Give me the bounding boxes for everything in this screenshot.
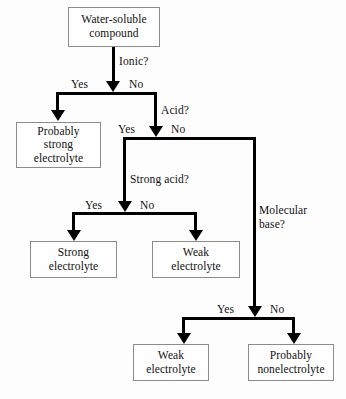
decision-label-molecular-base-line1: Molecular: [259, 204, 329, 218]
arrowhead-ionic: [106, 81, 120, 92]
node-strong-electrolyte-line1: Strong: [47, 246, 101, 260]
connector-strong-acid-yes: [72, 212, 75, 232]
node-strong-electrolyte: Strong electrolyte: [30, 241, 117, 278]
flowchart-canvas: Water-soluble compound Ionic? Yes No Pro…: [0, 0, 346, 399]
node-water-soluble-compound: Water-soluble compound: [68, 7, 160, 47]
node-probably-strong-electrolyte-line3: electrolyte: [32, 152, 86, 166]
decision-label-molecular-base-line2: base?: [259, 218, 329, 232]
branch-label-molecular-base-yes: Yes: [217, 303, 234, 317]
decision-label-ionic: Ionic?: [119, 55, 148, 69]
decision-label-acid: Acid?: [161, 104, 189, 118]
arrowhead-strong-acid: [118, 201, 132, 212]
branch-label-strong-acid-no: No: [140, 199, 154, 213]
connector-ionic-yes: [56, 92, 59, 112]
node-probably-nonelectrolyte-line2: nonelectrolyte: [255, 363, 326, 377]
branch-label-acid-no: No: [171, 123, 185, 137]
arrowhead-acid: [149, 126, 163, 137]
connector-strong-acid-no: [194, 212, 197, 232]
connector-molecular-base-split-bar: [182, 317, 295, 320]
branch-label-strong-acid-yes: Yes: [85, 199, 102, 213]
decision-label-strong-acid: Strong acid?: [130, 173, 189, 187]
node-weak-electrolyte-mid-line1: Weak: [169, 246, 223, 260]
node-weak-electrolyte-mid: Weak electrolyte: [152, 241, 240, 278]
branch-label-molecular-base-no: No: [270, 303, 284, 317]
node-strong-electrolyte-line2: electrolyte: [47, 260, 101, 274]
arrowhead-weak-electrolyte-mid: [189, 230, 203, 241]
connector-ionic-split-bar: [56, 92, 157, 95]
node-probably-nonelectrolyte-line1: Probably: [255, 349, 326, 363]
arrowhead-probably-strong-electrolyte: [51, 110, 65, 121]
connector-acid-split-bar: [123, 137, 256, 140]
arrowhead-weak-electrolyte-bottom: [177, 333, 191, 344]
connector-ionic-no: [154, 92, 157, 128]
connector-acid-no: [253, 137, 256, 308]
node-probably-strong-electrolyte-line2: strong: [32, 138, 86, 152]
node-weak-electrolyte-bottom-line2: electrolyte: [144, 363, 198, 377]
branch-label-ionic-no: No: [129, 78, 143, 92]
branch-label-ionic-yes: Yes: [71, 78, 88, 92]
node-probably-nonelectrolyte: Probably nonelectrolyte: [248, 344, 334, 381]
node-weak-electrolyte-bottom: Weak electrolyte: [133, 344, 209, 381]
node-weak-electrolyte-bottom-line1: Weak: [144, 349, 198, 363]
arrowhead-strong-electrolyte: [67, 230, 81, 241]
arrowhead-molecular-base: [248, 306, 262, 317]
node-water-soluble-compound-line1: Water-soluble: [79, 13, 148, 27]
node-water-soluble-compound-line2: compound: [79, 27, 148, 41]
node-probably-strong-electrolyte-line1: Probably: [32, 125, 86, 139]
connector-strong-acid-split-bar: [72, 212, 197, 215]
node-probably-strong-electrolyte: Probably strong electrolyte: [16, 122, 101, 168]
branch-label-acid-yes: Yes: [118, 123, 135, 137]
connector-acid-yes: [123, 137, 126, 203]
decision-label-molecular-base: Molecular base?: [259, 204, 329, 231]
node-weak-electrolyte-mid-line2: electrolyte: [169, 260, 223, 274]
arrowhead-probably-nonelectrolyte: [287, 333, 301, 344]
connector-start-to-ionic: [112, 47, 115, 83]
